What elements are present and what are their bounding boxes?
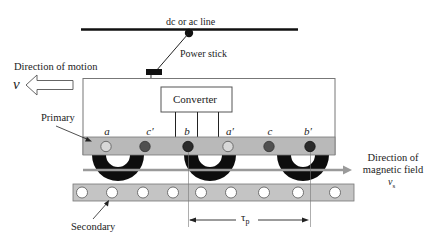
secondary-label: Secondary: [71, 222, 115, 233]
field-velocity-symbol: vs: [388, 177, 395, 190]
primary-coils: [92, 155, 329, 181]
power-stick-label: Power stick: [180, 49, 227, 59]
supply-line-label: dc or ac line: [166, 17, 215, 27]
conductor-c-prime: [140, 141, 150, 151]
coil: [184, 155, 236, 181]
primary-label: Primary: [41, 113, 75, 124]
conductor-c: [264, 141, 274, 151]
coil: [277, 155, 329, 181]
phase-label-b-prime: b′: [301, 126, 315, 137]
pitch-arrowhead-right: [302, 218, 309, 223]
phase-label-a: a: [101, 126, 113, 137]
motion-arrow-icon: [26, 75, 73, 95]
pitch-arrowhead-left: [189, 218, 196, 223]
phase-label-a-prime: a′: [223, 126, 237, 137]
direction-of-motion-label: Direction of motion: [14, 62, 97, 73]
conductor-b: [183, 141, 193, 151]
converter-label: Converter: [173, 94, 217, 105]
field-direction-label-line2: magnetic field: [355, 165, 430, 176]
field-velocity-subscript: s: [392, 182, 395, 190]
primary-band: [83, 137, 335, 155]
coil: [92, 155, 144, 181]
field-direction-label-line1: Direction of: [355, 153, 430, 164]
pole-pitch-subscript: p: [245, 217, 249, 226]
phase-label-b: b: [181, 126, 193, 137]
field-arrow-head: [343, 166, 352, 175]
pole-pitch-label: τp: [241, 212, 249, 226]
phase-label-c: c: [264, 126, 276, 137]
velocity-symbol: v: [13, 77, 20, 92]
current-collector-shoe: [146, 69, 162, 75]
conductor-a-prime: [223, 141, 233, 151]
conductor-b-prime: [305, 141, 315, 151]
conductor-a: [101, 141, 111, 151]
phase-label-c-prime: c′: [143, 126, 157, 137]
